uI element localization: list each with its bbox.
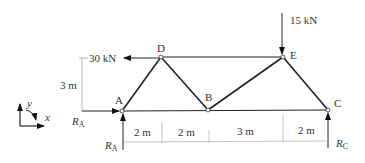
member-db — [161, 57, 208, 110]
member-ac — [122, 110, 328, 111]
joint-e — [281, 55, 285, 59]
height-dimension-label: 3 m — [60, 79, 77, 91]
joint-label-c: C — [334, 97, 341, 109]
span-label-2: 2 m — [178, 126, 195, 138]
load-label-30kn: 30 kN — [89, 52, 116, 64]
member-be — [208, 57, 283, 110]
member-ec — [283, 57, 328, 110]
joint-label-e: E — [290, 49, 297, 61]
truss-diagram: y x 3 m A D B E C 30 kN 15 kN RA RA RC — [0, 0, 365, 163]
joint-label-a: A — [115, 94, 123, 106]
coordinate-axes-icon — [20, 104, 44, 126]
height-dimension — [79, 58, 88, 111]
truss-joints — [120, 55, 330, 113]
joint-label-d: D — [157, 42, 165, 54]
reaction-label-ra-vertical: RA — [104, 139, 118, 153]
reaction-label-rc-vertical: RC — [335, 137, 348, 151]
load-label-15kn: 15 kN — [290, 14, 317, 26]
x-axis-label: x — [44, 111, 50, 123]
joint-label-b: B — [205, 91, 212, 103]
joint-d — [159, 55, 163, 59]
joint-a — [120, 109, 124, 113]
joint-c — [326, 108, 330, 112]
member-ad — [122, 57, 161, 111]
span-label-1: 2 m — [134, 126, 151, 138]
joint-b — [206, 108, 210, 112]
truss-members — [122, 57, 328, 111]
y-axis-label: y — [26, 97, 32, 109]
reaction-label-ra-horizontal: RA — [71, 115, 85, 129]
span-label-4: 2 m — [298, 124, 315, 136]
span-label-3: 3 m — [237, 125, 254, 137]
